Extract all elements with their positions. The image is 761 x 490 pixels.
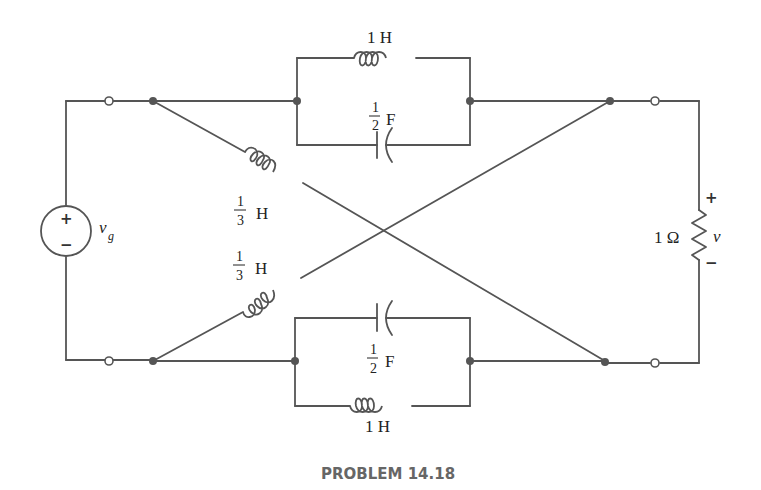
svg-text:3: 3	[236, 268, 243, 283]
svg-text:3: 3	[237, 213, 244, 228]
load-voltage-label: v	[713, 227, 721, 246]
load-wiring: + − 1 Ω v	[605, 101, 721, 363]
source-minus-sign: −	[60, 236, 73, 254]
bottom-inductor-label: 1 H	[365, 417, 390, 436]
svg-text:1: 1	[370, 342, 377, 357]
load-plus-sign: +	[705, 189, 718, 207]
svg-text:1: 1	[237, 194, 244, 209]
figure-caption: PROBLEM 14.18	[321, 465, 455, 483]
load-minus-sign: −	[705, 254, 718, 272]
cross-lower-label: 1 3 H	[233, 249, 267, 283]
cross-upper-label: 1 3 H	[234, 194, 268, 228]
cross-upper-inductor: 1 3 H	[153, 101, 605, 361]
cross-upper-inductor-icon	[245, 148, 275, 172]
svg-text:1: 1	[372, 100, 379, 115]
bottom-capacitor-label: 1 2 F	[367, 342, 394, 376]
svg-text:F: F	[386, 110, 395, 129]
resistor-icon	[692, 210, 706, 260]
source-label: v	[99, 218, 107, 237]
source-subscript: g	[108, 229, 114, 243]
svg-text:H: H	[255, 259, 267, 278]
circuit-diagram: + − v g 1 H 1 2 F	[0, 0, 761, 490]
resistor-label: 1 Ω	[654, 228, 679, 247]
svg-text:2: 2	[372, 118, 379, 133]
top-capacitor-label: 1 2 F	[369, 100, 395, 133]
svg-text:2: 2	[370, 361, 377, 376]
top-parallel-branch: 1 H 1 2 F	[297, 28, 470, 162]
top-inductor-label: 1 H	[367, 28, 392, 47]
bottom-inductor-icon	[350, 399, 382, 413]
top-inductor-icon	[354, 52, 386, 66]
svg-text:1: 1	[236, 249, 243, 264]
svg-text:H: H	[256, 204, 268, 223]
svg-text:F: F	[385, 352, 394, 371]
cross-lower-inductor-icon	[243, 290, 274, 317]
bottom-parallel-branch: 1 2 F 1 H	[295, 301, 470, 436]
voltage-source: + − v g	[41, 206, 114, 256]
source-plus-sign: +	[60, 210, 73, 228]
